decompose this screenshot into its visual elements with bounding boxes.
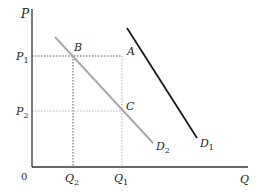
demand-curve-d1 (127, 28, 197, 138)
demand-shift-diagram: P Q 0 P1 P2 Q2 Q1 A B C D1 D2 (0, 0, 262, 194)
origin-label: 0 (21, 171, 27, 182)
quantity-label-q2: Q2 (65, 172, 79, 187)
point-label-c: C (126, 100, 135, 113)
quantity-label-q1: Q1 (114, 172, 128, 187)
point-label-a: A (126, 45, 135, 58)
demand-curve-d2 (55, 37, 153, 143)
price-label-p1: P1 (15, 50, 29, 65)
price-label-p2: P2 (15, 105, 29, 120)
curve-label-d2: D2 (155, 140, 170, 155)
curve-label-d1: D1 (199, 137, 214, 152)
point-label-b: B (73, 41, 82, 54)
x-axis-label: Q (240, 173, 249, 186)
y-axis-label: P (20, 7, 30, 21)
